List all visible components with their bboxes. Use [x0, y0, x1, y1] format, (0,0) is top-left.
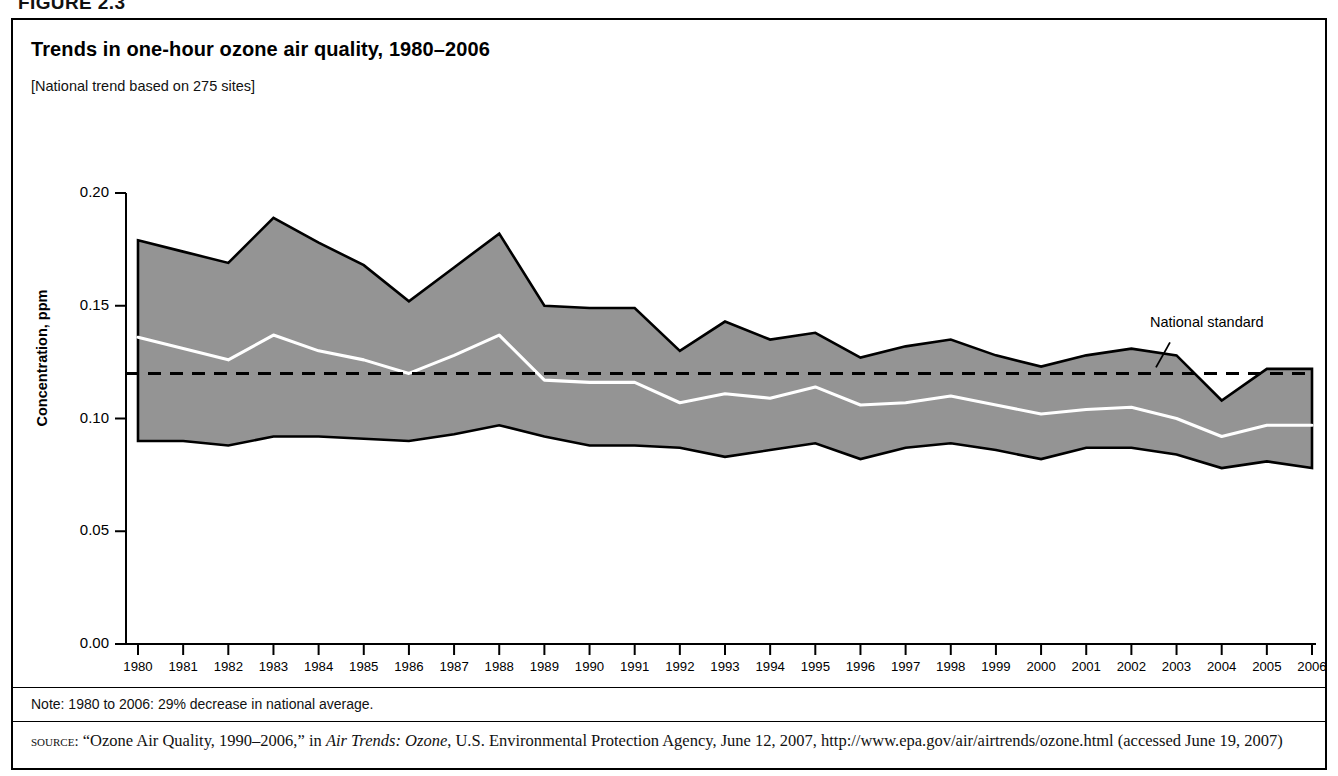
y-tick-label: 0.20: [53, 183, 109, 200]
chart-source: source: “Ozone Air Quality, 1990–2006,” …: [31, 730, 1316, 752]
national-standard-label: National standard: [1150, 314, 1264, 330]
percentile-band: [138, 218, 1312, 468]
y-tick-label: 0.15: [53, 296, 109, 313]
x-tick-label: 1983: [250, 659, 296, 674]
chart-note: Note: 1980 to 2006: 29% decrease in nati…: [31, 696, 373, 712]
y-tick-label: 0.00: [53, 634, 109, 651]
source-text-after-italic: , U.S. Environmental Protection Agency, …: [447, 731, 1283, 750]
x-tick-label: 1982: [205, 659, 251, 674]
x-axis-ticks: [138, 644, 1312, 655]
y-axis-title: Concentration, ppm: [34, 263, 50, 453]
x-tick-label: 2004: [1199, 659, 1245, 674]
x-tick-label: 1980: [115, 659, 161, 674]
x-tick-label: 2006: [1289, 659, 1335, 674]
x-tick-label: 1988: [476, 659, 522, 674]
x-tick-label: 1994: [747, 659, 793, 674]
x-tick-label: 1985: [341, 659, 387, 674]
x-tick-label: 2003: [1154, 659, 1200, 674]
x-tick-label: 1997: [883, 659, 929, 674]
x-tick-label: 1987: [431, 659, 477, 674]
x-tick-label: 1984: [296, 659, 342, 674]
x-tick-label: 1989: [521, 659, 567, 674]
x-tick-label: 1999: [973, 659, 1019, 674]
x-tick-label: 1986: [386, 659, 432, 674]
x-tick-label: 1990: [567, 659, 613, 674]
source-prefix: source:: [31, 733, 79, 749]
figure-panel: Trends in one-hour ozone air quality, 19…: [11, 18, 1327, 770]
note-divider: [13, 687, 1325, 688]
chart-plot-area: Concentration, ppm 0.000.050.100.150.20 …: [13, 20, 1329, 772]
x-tick-label: 1981: [160, 659, 206, 674]
y-tick-label: 0.05: [53, 521, 109, 538]
x-tick-label: 1995: [792, 659, 838, 674]
x-tick-label: 1996: [837, 659, 883, 674]
x-tick-label: 2001: [1063, 659, 1109, 674]
figure-label: FIGURE 2.3: [18, 0, 125, 14]
source-text-before-italic: “Ozone Air Quality, 1990–2006,” in: [79, 731, 326, 750]
y-tick-label: 0.10: [53, 409, 109, 426]
x-tick-label: 1993: [702, 659, 748, 674]
y-axis-ticks: [115, 193, 126, 644]
x-tick-label: 1991: [612, 659, 658, 674]
source-divider: [13, 721, 1325, 722]
ozone-trend-area-chart: [13, 20, 1329, 680]
source-publication-title: Air Trends: Ozone: [326, 731, 447, 750]
x-tick-label: 1998: [928, 659, 974, 674]
x-tick-label: 2002: [1108, 659, 1154, 674]
x-tick-label: 2000: [1018, 659, 1064, 674]
x-tick-label: 1992: [657, 659, 703, 674]
x-tick-label: 2005: [1244, 659, 1290, 674]
